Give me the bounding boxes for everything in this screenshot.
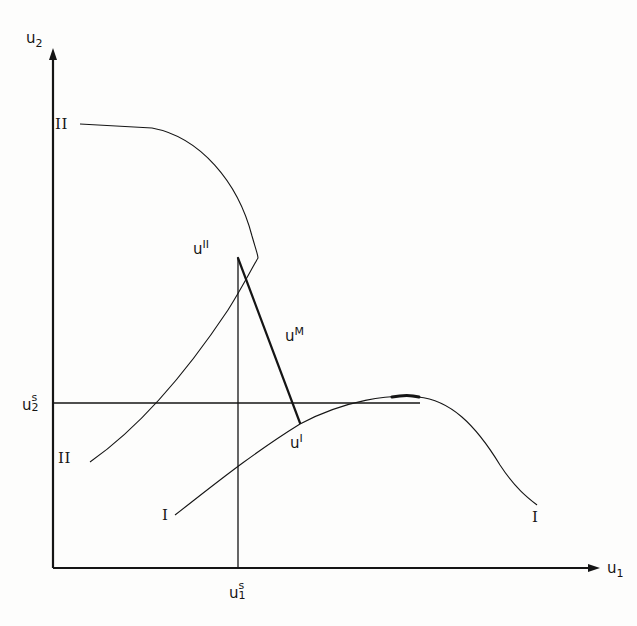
status-quo-u1-base: u — [229, 584, 239, 602]
y-axis-arrowhead — [49, 48, 57, 60]
status-quo-u2-label: us2 — [22, 395, 40, 413]
status-quo-u2-base: u — [22, 396, 32, 414]
status-quo-u1-sub: 1 — [239, 590, 246, 601]
utility-possibility-diagram: u2 u1 us2 us1 uII uM uI II II I I — [0, 0, 637, 626]
y-axis-label-sub: 2 — [36, 37, 43, 50]
curve-II-upper-label: II — [55, 117, 68, 132]
point-label-u-II-sup: II — [203, 238, 210, 251]
x-axis-label-base: u — [607, 559, 617, 577]
y-axis-label-base: u — [26, 29, 36, 47]
x-axis-label: u1 — [607, 560, 624, 576]
curve-I-lower-label: I — [162, 508, 168, 523]
curve-I-right-label: I — [532, 510, 538, 525]
point-label-u-M-base: u — [285, 327, 295, 345]
point-label-u-II: uII — [193, 241, 209, 257]
frontier-I-peak-emphasis — [392, 396, 419, 398]
frontier-curve-II — [80, 124, 258, 462]
point-label-u-I-base: u — [290, 434, 300, 452]
status-quo-u2-sub: 2 — [32, 402, 39, 413]
x-axis-arrowhead — [588, 564, 600, 572]
point-label-u-M-sup: M — [295, 325, 305, 338]
x-axis-label-sub: 1 — [617, 567, 624, 580]
status-quo-u1-label: us1 — [229, 583, 247, 601]
point-label-u-M: uM — [285, 328, 304, 344]
point-label-u-II-base: u — [193, 240, 203, 258]
frontier-curve-I — [175, 396, 537, 515]
y-axis-label: u2 — [26, 30, 43, 46]
status-quo-u1-indices: s1 — [239, 583, 247, 598]
diagram-canvas — [0, 0, 637, 626]
status-quo-u2-indices: s2 — [32, 395, 40, 410]
x-axis — [53, 564, 600, 572]
point-label-u-I: uI — [290, 435, 303, 451]
curve-II-lower-label: II — [58, 451, 71, 466]
point-label-u-I-sup: I — [300, 432, 303, 445]
